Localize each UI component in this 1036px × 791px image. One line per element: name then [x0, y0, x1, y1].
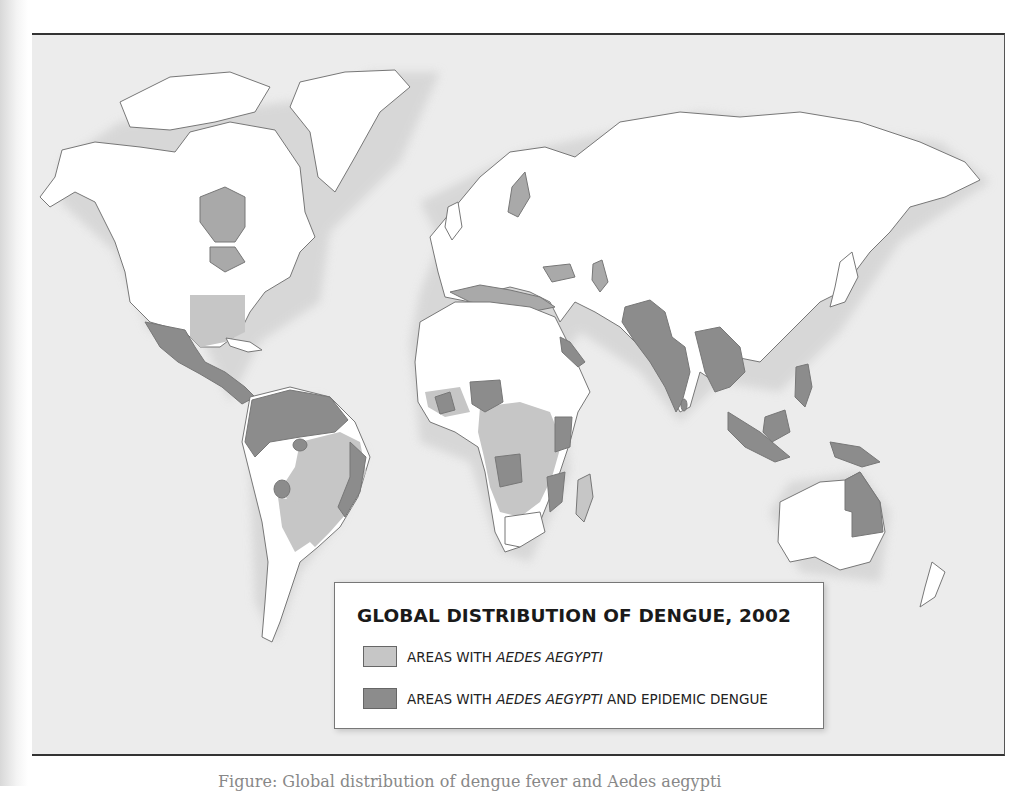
mozambique-epidemic — [547, 472, 565, 512]
legend-swatch-dark — [363, 688, 397, 709]
sri-lanka-epidemic — [681, 399, 687, 411]
borneo-epidemic — [763, 410, 790, 442]
africa — [415, 302, 593, 552]
madagascar-aedes — [576, 474, 593, 522]
page-edge-shadow — [0, 0, 28, 786]
map-frame: GLOBAL DISTRIBUTION OF DENGUE, 2002 AREA… — [32, 33, 1005, 756]
legend-title: GLOBAL DISTRIBUTION OF DENGUE, 2002 — [357, 605, 791, 626]
map-legend: GLOBAL DISTRIBUTION OF DENGUE, 2002 AREA… — [334, 582, 824, 729]
legend-label-aedes: AREAS WITH AEDES AEGYPTI — [407, 649, 603, 665]
oceania — [728, 410, 945, 607]
bolivia-epidemic — [274, 480, 290, 498]
legend-label-epidemic: AREAS WITH AEDES AEGYPTI AND EPIDEMIC DE… — [407, 691, 768, 707]
legend-item-aedes: AREAS WITH AEDES AEGYPTI — [363, 646, 603, 667]
figure-caption: Figure: Global distribution of dengue fe… — [218, 772, 721, 791]
new-zealand — [920, 562, 945, 607]
amazon-epidemic — [293, 439, 307, 451]
east-africa-epidemic — [555, 417, 572, 452]
legend-item-epidemic: AREAS WITH AEDES AEGYPTI AND EPIDEMIC DE… — [363, 688, 768, 709]
papua-new-guinea-epidemic — [830, 442, 880, 467]
philippines-epidemic — [795, 364, 812, 407]
legend-swatch-light — [363, 646, 397, 667]
angola-epidemic — [495, 454, 522, 487]
